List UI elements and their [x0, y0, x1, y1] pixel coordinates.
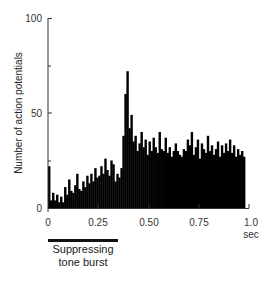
- x-tick-label-050: 0.50: [139, 217, 159, 228]
- stimulus-label: Suppressing tone burst: [40, 243, 126, 269]
- x-tick-label-075: 0.75: [189, 217, 209, 228]
- y-tick-label-100: 100: [25, 13, 42, 24]
- x-tick-label-0: 0: [45, 217, 51, 228]
- histogram-chart: 100 50 0 0 0.25 0.50 0.75 1.0 sec Number…: [0, 0, 272, 281]
- x-unit-label: sec: [243, 229, 259, 240]
- histogram-bars: [48, 71, 245, 208]
- x-tick-label-025: 0.25: [88, 217, 108, 228]
- stimulus-label-line1: Suppressing: [40, 243, 126, 256]
- stimulus-bar: [48, 239, 118, 242]
- histogram-bar: [243, 157, 245, 208]
- stimulus-label-line2: tone burst: [40, 256, 126, 269]
- y-axis-title: Number of action potentials: [13, 52, 24, 174]
- y-tick-label-50: 50: [31, 108, 43, 119]
- x-tick-label-100: 1.0: [244, 217, 258, 228]
- y-tick-label-0: 0: [36, 203, 42, 214]
